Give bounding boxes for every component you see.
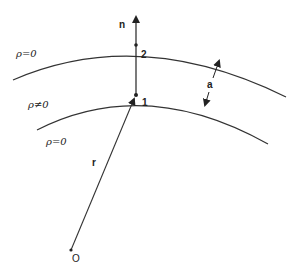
region-outer-label: ρ=0 (15, 48, 37, 59)
origin-label: O (72, 253, 80, 264)
radius-label: r (92, 157, 96, 168)
shell-diagram: n 2 1 a r O ρ=0 ρ≠0 ρ=0 (0, 0, 300, 272)
region-inner-label: ρ=0 (45, 136, 67, 147)
normal-label: n (119, 19, 125, 30)
point-2-dot (134, 43, 138, 47)
inner-surface-curve (37, 106, 268, 144)
point-1-dot (134, 93, 138, 97)
radius-vector-arrow (71, 99, 134, 250)
region-shell-label: ρ≠0 (27, 99, 49, 110)
thickness-label: a (207, 79, 213, 90)
point-1-label: 1 (142, 97, 148, 108)
thickness-arrow-down (205, 92, 209, 105)
outer-surface-curve (13, 56, 286, 97)
origin-dot (69, 248, 72, 251)
point-2-label: 2 (141, 49, 147, 60)
